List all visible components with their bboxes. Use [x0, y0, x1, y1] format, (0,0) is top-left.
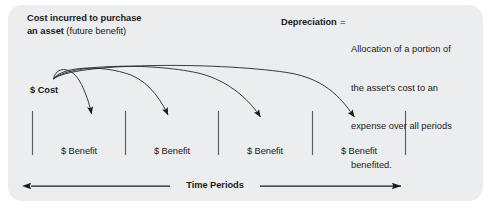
definition-line: benefited. — [351, 159, 452, 172]
depreciation-term: Depreciation — [281, 17, 337, 28]
asset-cost-heading: Cost incurred to purchasean asset (futur… — [27, 13, 141, 37]
benefit-label-1: $ Benefit — [39, 146, 119, 157]
depreciation-definition: Allocation of a portion of the asset's c… — [351, 17, 452, 198]
asset-cost-heading-note: (future benefit) — [66, 26, 126, 36]
allocation-arc-2 — [54, 68, 169, 115]
asset-cost-heading-line1: Cost incurred to purchase — [27, 13, 141, 23]
asset-cost-heading-line2: an asset — [27, 26, 66, 36]
equals-sign: = — [340, 17, 345, 28]
allocation-arc-4 — [54, 65, 355, 117]
definition-line: Allocation of a portion of — [351, 43, 452, 56]
benefit-label-3: $ Benefit — [225, 146, 305, 157]
benefit-label-4: $ Benefit — [319, 146, 399, 157]
cost-label: $ Cost — [30, 85, 58, 96]
definition-line: the asset's cost to an — [351, 82, 452, 95]
depreciation-diagram: Cost incurred to purchasean asset (futur… — [0, 0, 491, 211]
allocation-arcs — [54, 65, 355, 117]
time-periods-label: Time Periods — [170, 180, 260, 191]
definition-line: expense over all periods — [351, 120, 452, 133]
benefit-label-2: $ Benefit — [132, 146, 212, 157]
